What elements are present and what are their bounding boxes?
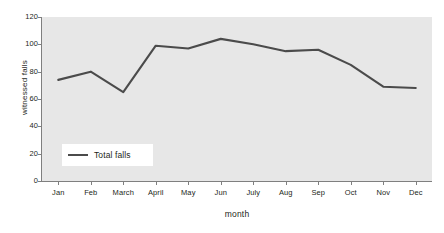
- x-tick-mark: [318, 182, 319, 185]
- x-tick-mark: [383, 182, 384, 185]
- legend-label: Total falls: [94, 150, 131, 160]
- x-tick-label: Dec: [394, 188, 438, 197]
- x-tick-mark: [253, 182, 254, 185]
- chart-legend: Total falls: [62, 144, 153, 166]
- x-tick-mark: [58, 182, 59, 185]
- x-tick-mark: [188, 182, 189, 185]
- x-axis-title: month: [42, 209, 432, 219]
- x-tick-mark: [286, 182, 287, 185]
- x-tick-mark: [351, 182, 352, 185]
- x-tick-mark: [221, 182, 222, 185]
- x-axis-ticks: JanFebMarchAprilMayJunJulyAugSepOctNovDe…: [0, 0, 444, 233]
- x-tick-mark: [123, 182, 124, 185]
- x-tick-mark: [156, 182, 157, 185]
- x-tick-mark: [91, 182, 92, 185]
- legend-line-swatch: [68, 154, 88, 156]
- y-axis-title: witnessed falls: [20, 28, 29, 148]
- x-tick-mark: [416, 182, 417, 185]
- line-chart-figure: 020406080100120 JanFebMarchAprilMayJunJu…: [0, 0, 444, 233]
